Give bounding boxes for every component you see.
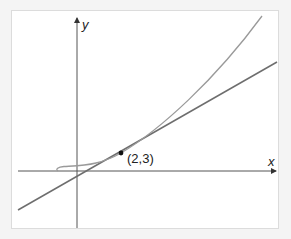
point-label: (2,3)	[127, 151, 154, 166]
x-axis-label: x	[267, 154, 275, 169]
tangent-point	[119, 151, 124, 156]
y-axis-label: y	[81, 17, 90, 32]
curve	[57, 16, 262, 171]
tangent-line	[18, 62, 277, 210]
graph-canvas: y x (2,3)	[0, 0, 291, 239]
